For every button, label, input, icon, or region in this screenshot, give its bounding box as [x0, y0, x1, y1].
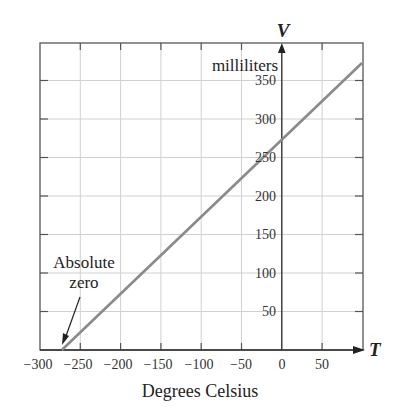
- x-tick-label: −100: [185, 357, 214, 372]
- v-axis-arrow-icon: [278, 43, 286, 53]
- x-tick-label: 0: [279, 357, 286, 372]
- y-axis-variable: V: [277, 20, 291, 41]
- y-tick-label: 50: [262, 304, 276, 319]
- x-axis-variable: T: [369, 339, 382, 360]
- y-tick-label: 150: [255, 227, 276, 242]
- y-tick-label: 200: [255, 189, 276, 204]
- annotation-arrow: [66, 297, 80, 336]
- x-tick-label: −200: [104, 357, 133, 372]
- annotation-line2: zero: [69, 273, 98, 292]
- y-tick-label: 350: [255, 73, 276, 88]
- y-axis-units: milliliters: [212, 56, 278, 75]
- x-tick-label: −250: [64, 357, 93, 372]
- x-tick-label: 50: [315, 357, 329, 372]
- grid: [40, 43, 363, 350]
- x-axis-title: Degrees Celsius: [142, 381, 258, 401]
- x-tick-label: −50: [230, 357, 252, 372]
- y-tick-label: 100: [255, 266, 276, 281]
- chart: 50 100 150 200 250 300 350 −300 −250 −20…: [0, 0, 401, 419]
- data-line: [62, 63, 362, 350]
- x-tick-label: −150: [144, 357, 173, 372]
- annotation-line1: Absolute: [53, 253, 114, 272]
- x-tick-label: −300: [24, 357, 53, 372]
- y-tick-label: 300: [255, 112, 276, 127]
- y-tick-label: 250: [255, 150, 276, 165]
